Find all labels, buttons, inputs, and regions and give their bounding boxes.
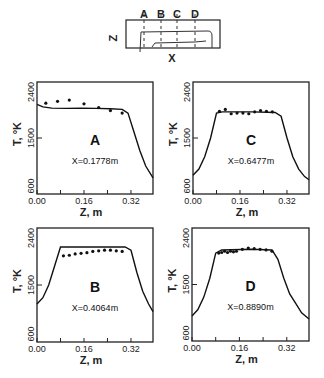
measured-point bbox=[218, 110, 221, 113]
measured-point bbox=[226, 251, 229, 254]
measured-point bbox=[109, 109, 112, 112]
panel-label: D bbox=[245, 278, 255, 294]
x-tick-label: 0.32 bbox=[122, 196, 140, 206]
measured-point bbox=[220, 251, 223, 254]
measured-point bbox=[235, 112, 238, 115]
measured-point bbox=[79, 252, 82, 255]
y-tick-label: 2400 bbox=[181, 228, 191, 248]
measured-point bbox=[235, 250, 238, 253]
schematic-z-label: Z bbox=[107, 34, 119, 41]
x-tick-label: 0.32 bbox=[122, 344, 140, 354]
measured-point bbox=[91, 250, 94, 253]
chart-panel-a: 0.000.160.3260015002400Z, mT, °KAX=0.177… bbox=[11, 82, 153, 218]
measured-point bbox=[259, 248, 262, 251]
y-tick-label: 2400 bbox=[182, 82, 192, 102]
y-tick-label: 600 bbox=[181, 325, 191, 340]
measured-point bbox=[44, 102, 47, 105]
panel-label: B bbox=[90, 279, 100, 295]
measured-point bbox=[247, 246, 250, 249]
x-tick-label: 0.16 bbox=[231, 196, 249, 206]
measured-point bbox=[259, 109, 262, 112]
x-position-annotation: X=0.1778m bbox=[72, 156, 118, 166]
measured-point bbox=[85, 251, 88, 254]
measured-point bbox=[68, 98, 71, 101]
measured-point bbox=[241, 112, 244, 115]
measured-point bbox=[115, 249, 118, 252]
measured-point bbox=[247, 112, 250, 115]
measured-point bbox=[271, 110, 274, 113]
x-axis-label: Z, m bbox=[235, 353, 258, 365]
measured-point bbox=[265, 110, 268, 113]
x-tick-label: 0.16 bbox=[231, 343, 249, 353]
chart-panel-d: 0.000.160.3260015002400Z, mT, °KDX=0.889… bbox=[166, 228, 309, 365]
measured-point bbox=[229, 250, 232, 253]
figure: A B C D Z X 0.000.160.3260015002400Z, mT… bbox=[0, 0, 324, 378]
schematic-diagram: A B C D Z X bbox=[107, 8, 220, 64]
x-tick-label: 0.16 bbox=[75, 344, 93, 354]
measured-point bbox=[223, 250, 226, 253]
measured-point bbox=[224, 108, 227, 111]
y-axis-label: T, °K bbox=[167, 122, 179, 146]
measured-point bbox=[74, 252, 77, 255]
y-tick-label: 600 bbox=[26, 178, 36, 193]
section-label-d: D bbox=[191, 8, 199, 20]
measured-point bbox=[97, 249, 100, 252]
x-position-annotation: X=0.8890m bbox=[227, 302, 273, 312]
measured-point bbox=[56, 100, 59, 103]
x-tick-label: 0.32 bbox=[278, 343, 296, 353]
measured-point bbox=[62, 254, 65, 257]
y-axis-label: T, °K bbox=[166, 268, 178, 292]
y-tick-label: 600 bbox=[182, 178, 192, 193]
y-tick-label: 1500 bbox=[26, 128, 36, 148]
panel-label: C bbox=[246, 132, 256, 148]
section-label-a: A bbox=[140, 8, 148, 20]
x-tick-label: 0.00 bbox=[28, 196, 46, 206]
y-tick-label: 2400 bbox=[26, 228, 36, 248]
x-tick-label: 0.00 bbox=[183, 343, 201, 353]
x-tick-label: 0.00 bbox=[28, 344, 46, 354]
x-tick-label: 0.00 bbox=[184, 196, 202, 206]
y-tick-label: 600 bbox=[26, 326, 36, 341]
measured-point bbox=[97, 106, 100, 109]
measured-point bbox=[109, 249, 112, 252]
x-tick-label: 0.32 bbox=[278, 196, 296, 206]
y-axis-label: T, °K bbox=[11, 122, 23, 146]
measured-point bbox=[253, 110, 256, 113]
x-axis-label: Z, m bbox=[80, 206, 103, 218]
y-tick-label: 2400 bbox=[26, 82, 36, 102]
measured-point bbox=[103, 249, 106, 252]
measured-point bbox=[217, 252, 220, 255]
chart-panel-b: 0.000.160.3260015002400Z, mT, °KBX=0.406… bbox=[11, 228, 153, 366]
measured-point bbox=[253, 247, 256, 250]
x-position-annotation: X=0.6477m bbox=[228, 156, 274, 166]
measured-point bbox=[270, 250, 273, 253]
measured-point bbox=[121, 112, 124, 115]
schematic-x-label: X bbox=[168, 52, 176, 64]
x-axis-label: Z, m bbox=[236, 206, 259, 218]
panel-label: A bbox=[90, 132, 100, 148]
section-label-c: C bbox=[173, 8, 181, 20]
measured-point bbox=[68, 254, 71, 257]
measured-point bbox=[232, 250, 235, 253]
y-axis-label: T, °K bbox=[11, 269, 23, 293]
x-position-annotation: X=0.4064m bbox=[72, 303, 118, 313]
measured-point bbox=[121, 250, 124, 253]
x-axis-label: Z, m bbox=[80, 354, 103, 366]
y-tick-label: 1500 bbox=[181, 274, 191, 294]
measured-point bbox=[82, 102, 85, 105]
measured-point bbox=[241, 248, 244, 251]
y-tick-label: 1500 bbox=[182, 128, 192, 148]
measured-point bbox=[230, 112, 233, 115]
section-label-b: B bbox=[157, 8, 165, 20]
chart-panel-c: 0.000.160.3260015002400Z, mT, °KCX=0.647… bbox=[167, 82, 309, 218]
y-tick-label: 1500 bbox=[26, 275, 36, 295]
measured-point bbox=[264, 248, 267, 251]
x-tick-label: 0.16 bbox=[75, 196, 93, 206]
